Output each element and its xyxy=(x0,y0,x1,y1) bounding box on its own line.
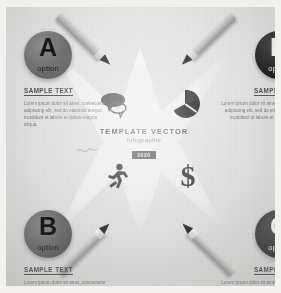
option-block-d[interactable]: D option SAMPLE TEXT Lorem ipsum dolor s… xyxy=(219,31,275,128)
option-letter-b: B xyxy=(24,214,72,239)
infographic-image: $ TEMPLATE VECTOR Infographic 2020 A opt… xyxy=(0,0,281,293)
center-badge: 2020 xyxy=(132,151,156,159)
option-body-d: SAMPLE TEXT Lorem ipsum dolor sit amet, … xyxy=(219,79,275,128)
option-block-a[interactable]: A option SAMPLE TEXT Lorem ipsum dolor s… xyxy=(24,31,108,128)
option-circle-b[interactable]: B option xyxy=(24,210,72,258)
option-heading-c: SAMPLE TEXT xyxy=(254,266,275,275)
option-letter-d: D xyxy=(255,35,275,60)
option-letter-a: A xyxy=(24,35,72,60)
option-block-b[interactable]: B option SAMPLE TEXT Lorem ipsum dolor s… xyxy=(24,210,108,286)
option-caption-c: option xyxy=(255,243,275,252)
option-heading-b: SAMPLE TEXT xyxy=(24,266,73,275)
option-circle-c[interactable]: C option xyxy=(255,210,275,258)
center-subtitle: Infographic xyxy=(94,137,194,143)
option-letter-c: C xyxy=(255,214,275,239)
pie-chart-icon xyxy=(170,89,200,119)
option-paragraph-c: Lorem ipsum dolor sit amet, consectetur … xyxy=(219,279,275,286)
option-heading-d: SAMPLE TEXT xyxy=(254,87,275,96)
option-caption-d: option xyxy=(255,64,275,73)
option-paragraph-d: Lorem ipsum dolor sit amet, consectetur … xyxy=(219,100,275,128)
option-circle-a[interactable]: A option xyxy=(24,31,72,79)
option-body-b: SAMPLE TEXT Lorem ipsum dolor sit amet, … xyxy=(24,258,108,286)
scribble-mark xyxy=(76,145,98,157)
option-body-c: SAMPLE TEXT Lorem ipsum dolor sit amet, … xyxy=(219,258,275,286)
photo-canvas: $ TEMPLATE VECTOR Infographic 2020 A opt… xyxy=(6,7,275,286)
center-title: TEMPLATE VECTOR xyxy=(94,127,194,136)
option-block-c[interactable]: C option SAMPLE TEXT Lorem ipsum dolor s… xyxy=(219,210,275,286)
option-caption-a: option xyxy=(24,64,72,73)
option-circle-d[interactable]: D option xyxy=(255,31,275,79)
center-text-block: TEMPLATE VECTOR Infographic 2020 xyxy=(94,127,194,161)
option-paragraph-a: Lorem ipsum dolor sit amet, consectetur … xyxy=(24,100,108,128)
dollar-sign-icon: $ xyxy=(175,159,201,193)
option-heading-a: SAMPLE TEXT xyxy=(24,87,73,96)
running-person-icon xyxy=(104,163,130,191)
option-paragraph-b: Lorem ipsum dolor sit amet, consectetur … xyxy=(24,279,108,286)
option-body-a: SAMPLE TEXT Lorem ipsum dolor sit amet, … xyxy=(24,79,108,128)
option-caption-b: option xyxy=(24,243,72,252)
